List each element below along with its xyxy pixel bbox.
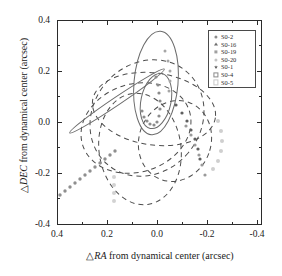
legend-label-5: S0-4 — [221, 71, 233, 79]
x-tick-minor-1 — [132, 222, 133, 225]
x-tick-major-2 — [157, 220, 158, 225]
x-tick-minor-3 — [232, 222, 233, 225]
x-tick-minor-0 — [82, 222, 83, 225]
legend-marker-square-open-pale-icon — [212, 79, 220, 86]
points-s0-5 — [112, 175, 116, 203]
x-axis-title: △RA from dynamical center (arcsec) — [40, 250, 280, 261]
x-tick-minor-2 — [182, 222, 183, 225]
orbit-figure: 0.4 0.2 0.0 -0.2 -0.4 0.4 0.2 0.0 -0.2 -… — [0, 0, 282, 276]
legend-label-4: S0-1 — [221, 63, 233, 71]
y-tick-right-m3 — [259, 198, 262, 199]
x-tick-label-0: 0.4 — [42, 229, 72, 239]
x-axis-variable: RA — [94, 250, 106, 261]
legend-marker-square-open-icon — [212, 71, 220, 78]
x-tick-label-1: 0.2 — [92, 229, 122, 239]
points-s0-20 — [211, 119, 224, 171]
legend-marker-triangle-icon — [212, 41, 220, 48]
legend-label-2: S0-19 — [221, 48, 236, 56]
points-s0-1 — [174, 103, 201, 160]
orbit-extra-dashed — [88, 65, 221, 154]
y-axis-variable: DEC — [18, 165, 29, 185]
legend-item-s0-19: S0-19 — [212, 48, 253, 56]
y-tick-right-m2 — [259, 147, 262, 148]
legend-marker-star-icon — [212, 64, 220, 71]
y-tick-major-2 — [57, 122, 62, 123]
y-tick-minor-0 — [57, 45, 60, 46]
x-tick-top-m1 — [132, 20, 133, 23]
y-axis-title-rest: from dynamical center (arcsec) — [18, 38, 29, 165]
x-tick-label-3: -0.2 — [192, 229, 222, 239]
x-tick-top-3 — [207, 20, 208, 25]
legend: S0-2 S0-16 S0-19 S0-20 S0-1 S0-4 S0-5 — [208, 30, 256, 88]
y-tick-right-2 — [257, 122, 262, 123]
legend-item-s0-2: S0-2 — [212, 33, 253, 41]
x-tick-major-0 — [57, 220, 58, 225]
x-tick-major-3 — [207, 220, 208, 225]
solid-orbit-group — [68, 29, 183, 136]
points-s0-19 — [164, 50, 172, 93]
y-tick-minor-2 — [57, 147, 60, 148]
legend-marker-dot-pale-icon — [212, 56, 220, 63]
legend-label-6: S0-5 — [221, 79, 233, 87]
x-tick-top-m2 — [182, 20, 183, 23]
legend-item-s0-16: S0-16 — [212, 41, 253, 49]
y-tick-minor-3 — [57, 198, 60, 199]
x-axis-title-rest: from dynamical center (arcsec) — [107, 250, 234, 261]
legend-item-s0-20: S0-20 — [212, 56, 253, 64]
y-tick-right-m1 — [259, 96, 262, 97]
x-tick-top-1 — [107, 20, 108, 25]
points-s0-4 — [184, 124, 206, 176]
x-tick-major-1 — [107, 220, 108, 225]
y-tick-major-3 — [57, 173, 62, 174]
y-tick-right-3 — [257, 173, 262, 174]
x-tick-label-2: 0.0 — [142, 229, 172, 239]
x-tick-top-4 — [257, 20, 258, 25]
legend-label-1: S0-16 — [221, 41, 236, 49]
legend-marker-dot-icon — [212, 33, 220, 40]
legend-item-s0-1: S0-1 — [212, 63, 253, 71]
y-tick-right-m0 — [259, 45, 262, 46]
legend-label-3: S0-20 — [221, 56, 236, 64]
dashed-orbit-group — [66, 37, 227, 211]
x-tick-top-m0 — [82, 20, 83, 23]
legend-label-0: S0-2 — [221, 33, 233, 41]
legend-marker-square-icon — [212, 48, 220, 55]
x-tick-label-4: -0.4 — [242, 229, 272, 239]
x-tick-top-0 — [57, 20, 58, 25]
x-tick-top-2 — [157, 20, 158, 25]
legend-item-s0-4: S0-4 — [212, 71, 253, 79]
y-axis-delta-symbol: △ — [18, 185, 29, 193]
points-s0-16 — [58, 149, 116, 196]
orbit-s0-1-dashed — [69, 69, 203, 187]
y-axis-title: △DEC from dynamical center (arcsec) — [18, 1, 29, 231]
x-tick-major-4 — [257, 220, 258, 225]
x-tick-top-m3 — [232, 20, 233, 23]
y-tick-major-1 — [57, 71, 62, 72]
y-tick-minor-1 — [57, 96, 60, 97]
y-tick-right-1 — [257, 71, 262, 72]
legend-item-s0-5: S0-5 — [212, 79, 253, 87]
